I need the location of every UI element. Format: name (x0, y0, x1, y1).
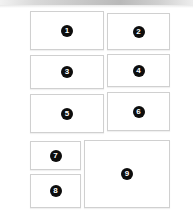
panel-badge-6: 6 (133, 106, 145, 118)
panel-badge-2: 2 (133, 26, 145, 38)
panel-5[interactable]: 5 (30, 94, 104, 133)
panel-3[interactable]: 3 (30, 55, 104, 89)
panel-6[interactable]: 6 (107, 92, 170, 131)
panel-9[interactable]: 9 (84, 140, 170, 208)
panel-2[interactable]: 2 (107, 13, 170, 50)
panel-badge-4: 4 (133, 65, 145, 77)
panel-badge-7: 7 (50, 150, 62, 162)
layout-canvas: 123456789 (0, 0, 193, 216)
top-band-shadow (0, 5, 193, 8)
panel-badge-8: 8 (50, 185, 62, 197)
panel-7[interactable]: 7 (30, 141, 81, 170)
panel-badge-3: 3 (61, 66, 73, 78)
panel-badge-9: 9 (121, 168, 133, 180)
panel-1[interactable]: 1 (30, 11, 104, 50)
panel-8[interactable]: 8 (30, 174, 81, 208)
panel-badge-5: 5 (61, 108, 73, 120)
panel-4[interactable]: 4 (107, 54, 170, 87)
panel-badge-1: 1 (61, 25, 73, 37)
